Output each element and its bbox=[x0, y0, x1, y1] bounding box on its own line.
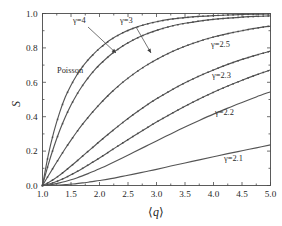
data-marker bbox=[97, 142, 99, 144]
y-tick-label: 0.2 bbox=[26, 146, 38, 156]
data-marker bbox=[72, 82, 74, 84]
data-marker bbox=[132, 114, 134, 116]
data-marker bbox=[47, 176, 49, 178]
x-tick-label: 5.0 bbox=[265, 189, 277, 199]
data-marker bbox=[52, 179, 54, 181]
data-marker bbox=[237, 81, 239, 83]
data-marker bbox=[232, 83, 234, 85]
data-marker bbox=[172, 88, 174, 90]
data-marker bbox=[117, 35, 119, 37]
data-marker bbox=[172, 112, 174, 114]
data-marker bbox=[187, 22, 189, 24]
x-tick-label: 4.5 bbox=[236, 189, 248, 199]
data-marker bbox=[82, 85, 84, 87]
data-marker bbox=[52, 168, 54, 170]
data-marker bbox=[212, 92, 214, 94]
data-marker bbox=[117, 126, 119, 128]
data-marker bbox=[127, 78, 128, 80]
data-marker bbox=[172, 25, 174, 27]
data-marker bbox=[82, 155, 84, 157]
gamma21-label: γ=2.1 bbox=[223, 154, 243, 163]
x-tick-label: 2.0 bbox=[94, 189, 106, 199]
data-marker bbox=[197, 21, 199, 23]
data-marker bbox=[57, 176, 59, 178]
data-marker bbox=[227, 85, 229, 87]
data-marker bbox=[172, 18, 174, 20]
data-marker bbox=[222, 34, 224, 36]
data-marker bbox=[87, 117, 89, 119]
data-marker bbox=[267, 13, 269, 15]
data-marker bbox=[197, 99, 199, 101]
data-marker bbox=[72, 137, 74, 139]
data-marker bbox=[47, 158, 49, 160]
data-marker bbox=[232, 17, 234, 19]
data-marker bbox=[262, 26, 264, 28]
data-marker bbox=[87, 151, 89, 153]
data-marker bbox=[207, 38, 209, 40]
data-marker bbox=[107, 41, 109, 43]
data-marker bbox=[157, 29, 159, 31]
data-marker bbox=[137, 111, 139, 113]
data-marker bbox=[67, 92, 69, 94]
x-tick-label: 4.0 bbox=[208, 189, 220, 199]
data-marker bbox=[72, 101, 74, 103]
data-marker bbox=[227, 17, 229, 19]
data-marker bbox=[127, 30, 128, 32]
line-chart: 1.01.52.02.53.03.54.04.55.0 0.00.20.40.6… bbox=[0, 0, 282, 226]
data-marker bbox=[227, 64, 229, 66]
data-marker bbox=[177, 24, 179, 26]
data-marker bbox=[257, 73, 259, 75]
data-marker bbox=[202, 74, 204, 76]
x-tick-label: 2.5 bbox=[122, 189, 134, 199]
data-marker bbox=[162, 55, 164, 57]
data-marker bbox=[77, 170, 79, 172]
data-marker bbox=[132, 28, 134, 30]
data-marker bbox=[232, 14, 234, 16]
data-marker bbox=[152, 123, 154, 125]
data-marker bbox=[257, 54, 259, 56]
data-marker bbox=[207, 19, 209, 21]
data-marker bbox=[217, 35, 219, 37]
data-marker bbox=[142, 107, 144, 109]
x-axis-title: ⟨q⟩ bbox=[148, 205, 164, 219]
data-marker bbox=[262, 13, 264, 15]
data-marker bbox=[252, 55, 254, 57]
data-marker bbox=[177, 18, 179, 20]
data-marker bbox=[212, 15, 214, 17]
data-marker bbox=[242, 14, 244, 16]
data-marker bbox=[152, 100, 154, 102]
data-marker bbox=[227, 33, 229, 35]
x-tick-label: 3.5 bbox=[179, 189, 191, 199]
data-marker bbox=[197, 76, 199, 78]
data-marker bbox=[187, 44, 189, 46]
data-marker bbox=[152, 22, 154, 24]
data-marker bbox=[67, 111, 69, 113]
data-marker bbox=[62, 123, 64, 125]
data-marker bbox=[132, 136, 134, 138]
data-marker bbox=[257, 16, 259, 18]
data-marker bbox=[197, 16, 199, 17]
data-marker bbox=[62, 172, 64, 174]
data-marker bbox=[217, 15, 219, 17]
y-tick-label: 0.0 bbox=[26, 181, 38, 191]
data-marker bbox=[187, 104, 189, 106]
gamma23-label: γ=2.3 bbox=[211, 71, 231, 80]
data-marker bbox=[112, 52, 114, 54]
data-marker bbox=[247, 77, 249, 79]
data-marker bbox=[142, 67, 144, 69]
data-marker bbox=[47, 182, 49, 184]
data-marker bbox=[92, 147, 94, 149]
data-marker bbox=[252, 14, 254, 16]
data-marker bbox=[202, 15, 204, 17]
data-marker bbox=[192, 78, 194, 80]
data-marker bbox=[127, 139, 128, 141]
data-marker bbox=[62, 152, 64, 154]
data-marker bbox=[222, 14, 224, 16]
data-marker bbox=[77, 93, 79, 95]
data-marker bbox=[177, 48, 179, 50]
data-marker bbox=[72, 164, 74, 166]
data-marker bbox=[102, 61, 104, 63]
data-marker bbox=[162, 20, 164, 22]
data-marker bbox=[192, 16, 194, 18]
data-marker bbox=[147, 127, 149, 129]
